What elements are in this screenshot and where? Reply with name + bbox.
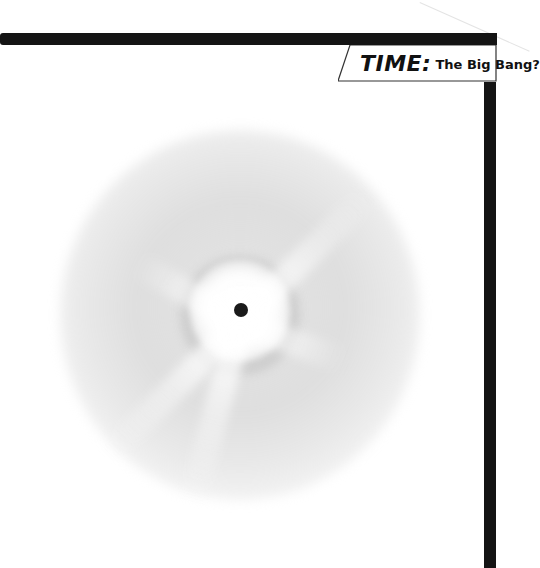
section-label-tab: TIME:The Big Bang? [338,45,497,82]
label-prefix: TIME: [360,51,431,76]
right-frame-bar [484,82,496,568]
big-bang-illustration [60,130,420,500]
label-title: The Big Bang? [435,57,539,72]
singularity-dot-icon [234,303,248,317]
top-frame-bar [0,33,497,45]
section-label: TIME:The Big Bang? [360,51,540,76]
